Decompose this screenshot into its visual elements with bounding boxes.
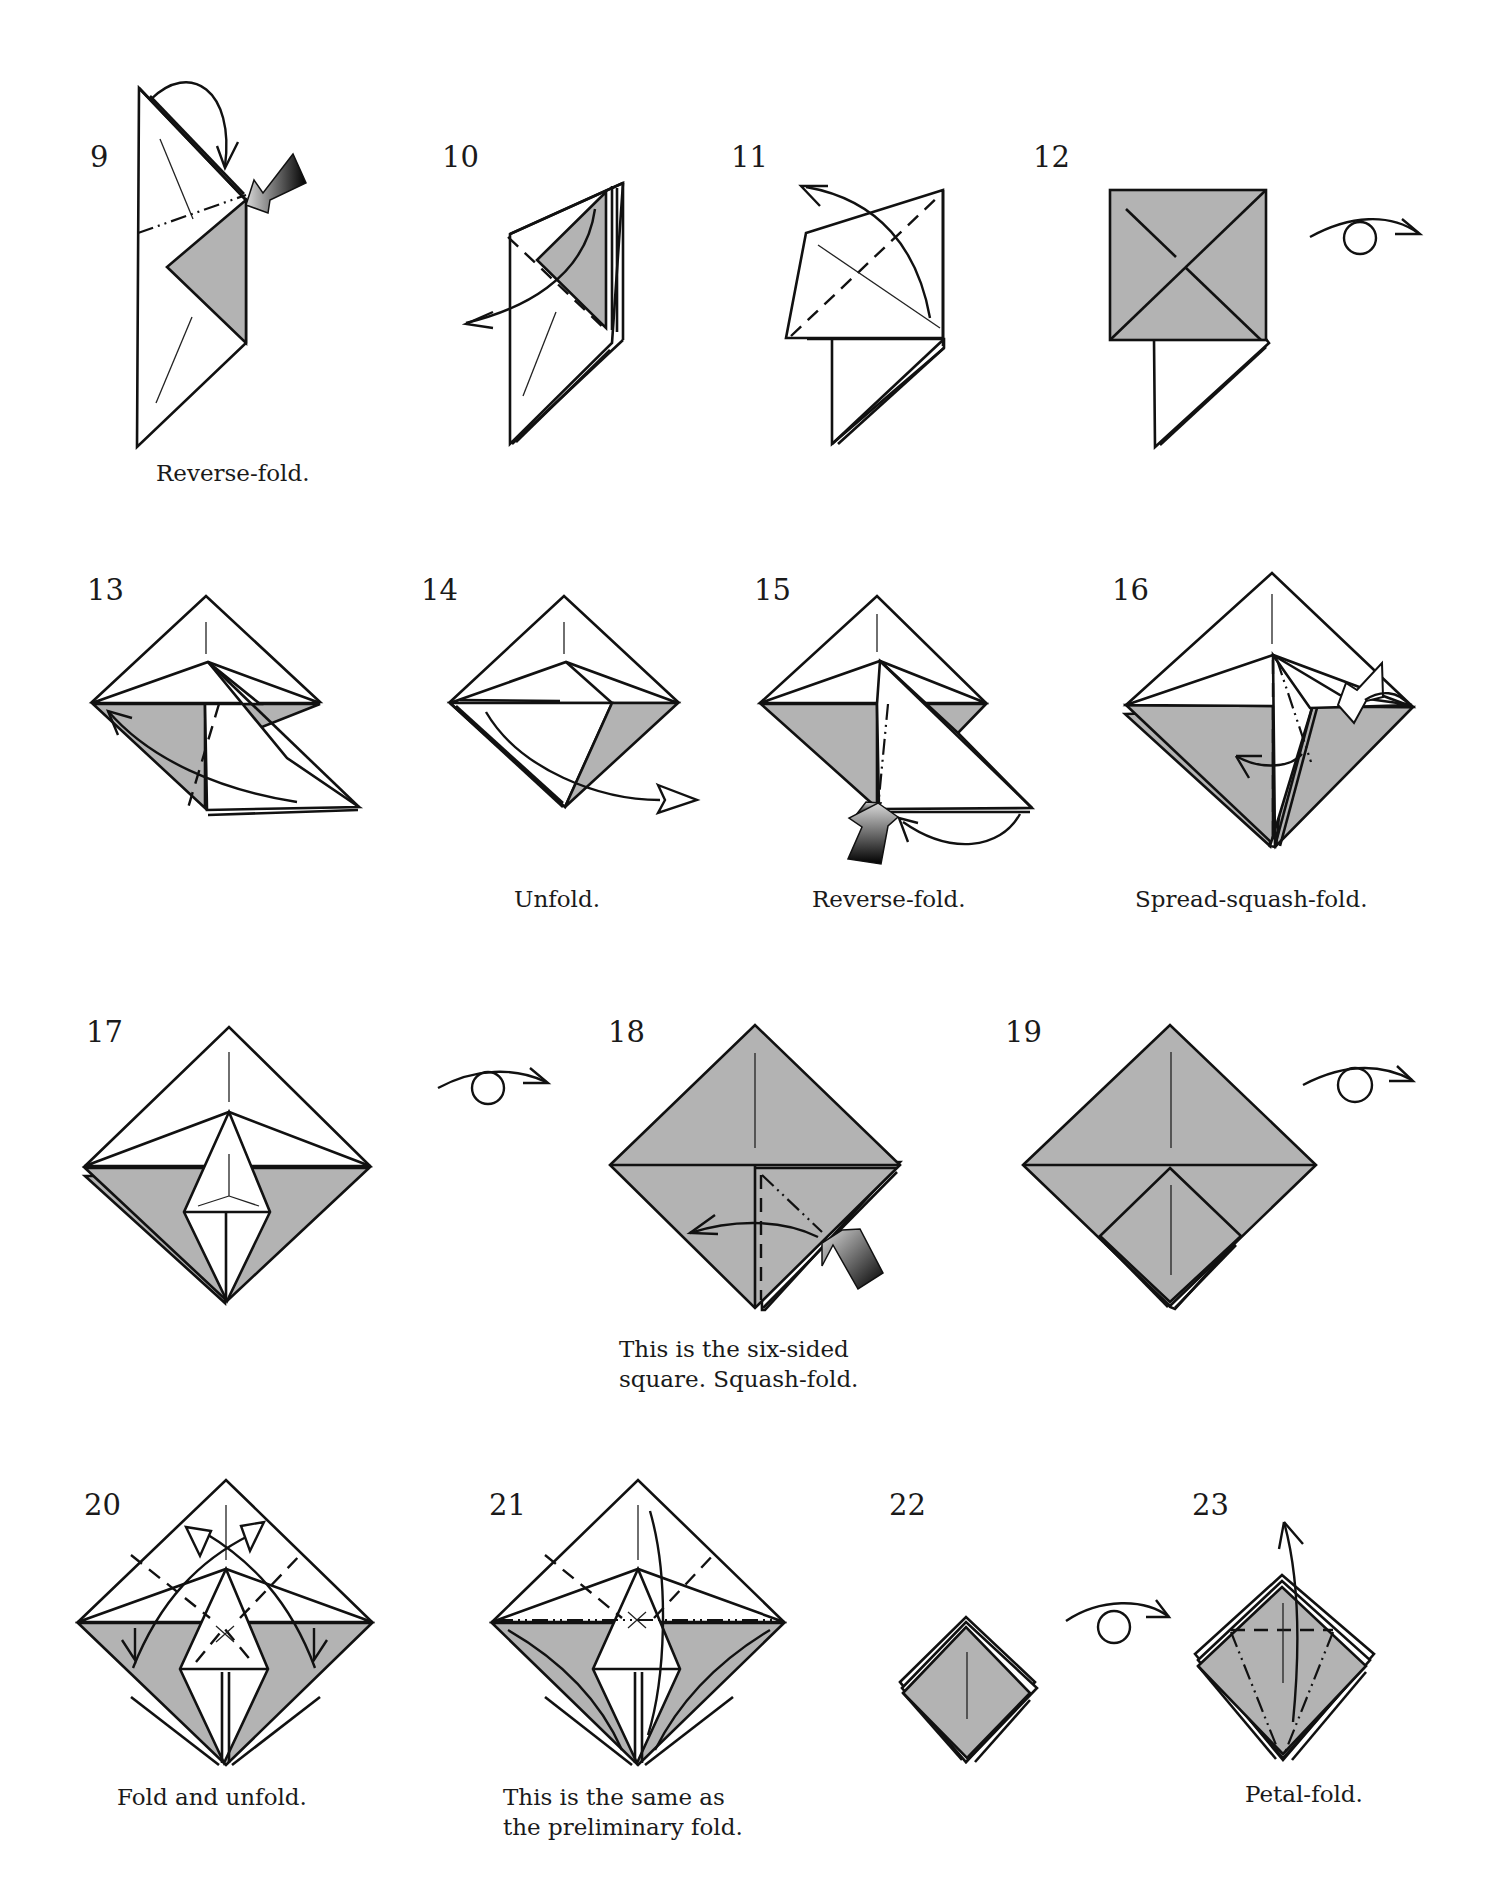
step-17-diagram (85, 1027, 548, 1303)
step-15-diagram (760, 596, 1032, 864)
step-22-diagram (900, 1600, 1169, 1762)
step-20-diagram (78, 1480, 372, 1765)
step-23-diagram (1195, 1522, 1374, 1760)
fold-arrow (903, 814, 1020, 844)
step-13-diagram (92, 596, 359, 815)
turn-over-arrow-icon (1310, 219, 1420, 254)
push-arrow-icon (848, 803, 898, 864)
step-10-diagram (466, 183, 623, 444)
step-12-diagram (1110, 190, 1420, 447)
step-16-diagram (1125, 573, 1413, 847)
step-14-diagram (450, 596, 697, 813)
step-9-diagram (137, 82, 306, 447)
step-19-diagram (1023, 1025, 1413, 1309)
turn-over-arrow-icon (438, 1068, 548, 1104)
diagram-canvas (0, 0, 1508, 1902)
step-21-diagram (492, 1480, 784, 1765)
step-18-diagram (610, 1025, 900, 1310)
step-11-diagram (786, 186, 944, 444)
turn-over-arrow-icon (1066, 1600, 1169, 1643)
turn-over-arrow-icon (1303, 1066, 1413, 1102)
push-arrow-icon (822, 1229, 883, 1289)
push-arrow-icon (246, 154, 306, 213)
